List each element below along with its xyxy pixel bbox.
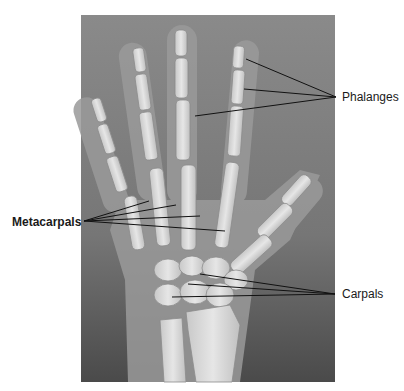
carpals-leader-line — [188, 284, 335, 294]
phalanges-label: Phalanges — [342, 90, 399, 104]
metacarpals-label: Metacarpals — [12, 215, 81, 229]
metacarpals-leader-line — [84, 221, 225, 231]
phalanges-leader-line — [195, 97, 336, 116]
carpals-leader-line — [200, 274, 335, 294]
hand-xray-figure: Phalanges Metacarpals Carpals — [0, 0, 404, 391]
carpals-leader-line — [172, 294, 335, 297]
phalanges-leader-line — [246, 59, 336, 97]
phalanges-leader-line — [244, 89, 336, 97]
carpals-label: Carpals — [342, 287, 383, 301]
metacarpals-leader-line — [84, 216, 200, 221]
leader-lines — [0, 0, 404, 391]
